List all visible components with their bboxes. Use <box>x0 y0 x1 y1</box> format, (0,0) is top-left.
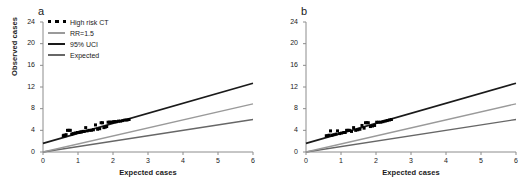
legend-swatch <box>47 17 67 27</box>
x-tick-label: 3 <box>141 157 155 164</box>
legend-label: Expected <box>67 52 99 59</box>
reference-line <box>43 104 253 152</box>
data-point <box>390 118 393 121</box>
data-point <box>92 128 95 131</box>
x-tick-label: 5 <box>211 157 225 164</box>
y-tick-label: 20 <box>282 39 298 46</box>
y-tick-label: 16 <box>19 61 35 68</box>
x-tick-label: 1 <box>71 157 85 164</box>
data-point <box>105 125 108 128</box>
legend-swatch <box>47 28 67 38</box>
x-tick-label: 3 <box>404 157 418 164</box>
x-tick-label: 1 <box>334 157 348 164</box>
data-point <box>335 133 338 136</box>
y-tick-label: 4 <box>19 126 35 133</box>
legend-item: RR=1.5 <box>47 28 109 38</box>
data-point <box>101 121 104 124</box>
y-tick-label: 16 <box>282 61 298 68</box>
x-tick-label: 6 <box>246 157 260 164</box>
reference-line <box>43 120 253 153</box>
x-tick-label: 4 <box>176 157 190 164</box>
data-point <box>363 127 366 130</box>
y-tick-label: 24 <box>19 18 35 25</box>
x-tick-label: 5 <box>474 157 488 164</box>
y-tick-label: 20 <box>19 39 35 46</box>
x-tick-label: 6 <box>509 157 523 164</box>
y-tick-label: 24 <box>282 18 298 25</box>
legend: High risk CTRR=1.595% UCIExpected <box>47 17 109 61</box>
reference-line <box>306 104 516 152</box>
panel-b: b Expected cases 048121620240123456 <box>263 0 526 186</box>
legend-item: Expected <box>47 50 109 60</box>
x-tick-label: 2 <box>369 157 383 164</box>
y-tick-label: 8 <box>282 104 298 111</box>
legend-swatch <box>47 39 67 49</box>
legend-swatch <box>47 50 67 60</box>
data-point <box>358 128 361 131</box>
legend-item: 95% UCI <box>47 39 109 49</box>
legend-line-icon <box>48 54 65 56</box>
data-point <box>69 129 72 132</box>
legend-label: High risk CT <box>67 19 109 26</box>
legend-label: RR=1.5 <box>67 30 94 37</box>
panel-a: a Observed cases Expected cases High ris… <box>0 0 263 186</box>
data-point <box>352 126 355 129</box>
data-point <box>328 134 331 137</box>
figure-container: a Observed cases Expected cases High ris… <box>0 0 526 186</box>
data-point <box>329 129 332 132</box>
legend-item: High risk CT <box>47 17 109 27</box>
data-point <box>94 123 97 126</box>
data-point <box>84 126 87 129</box>
y-tick-label: 0 <box>282 148 298 155</box>
data-point <box>361 124 364 127</box>
legend-dots-icon <box>48 20 66 23</box>
data-point <box>128 118 131 121</box>
y-tick-label: 12 <box>282 83 298 90</box>
data-point <box>65 133 68 136</box>
y-tick-label: 8 <box>19 104 35 111</box>
legend-line-icon <box>48 43 65 45</box>
data-point <box>367 121 370 124</box>
data-point <box>336 129 339 132</box>
x-tick-label: 0 <box>299 157 313 164</box>
legend-line-icon <box>48 32 65 34</box>
data-point <box>83 130 86 133</box>
data-point <box>373 124 376 127</box>
data-point <box>350 130 353 133</box>
y-tick-label: 12 <box>19 83 35 90</box>
x-tick-label: 0 <box>36 157 50 164</box>
y-tick-label: 4 <box>282 126 298 133</box>
x-tick-label: 2 <box>106 157 120 164</box>
data-point <box>98 127 101 130</box>
x-tick-label: 4 <box>439 157 453 164</box>
y-tick-label: 0 <box>19 148 35 155</box>
legend-label: 95% UCI <box>67 41 98 48</box>
reference-line <box>306 120 516 153</box>
